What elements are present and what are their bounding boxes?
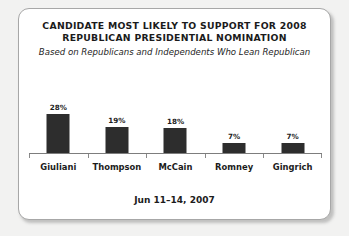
bar-slot-giuliani: 28%: [29, 87, 88, 153]
bar-giuliani: [47, 114, 70, 153]
category-label-giuliani: Giuliani: [29, 162, 88, 172]
bar-chart-plot-area: 28% 19% 18% 7% 7%: [29, 87, 322, 155]
chart-title-line-2: REPUBLICAN PRESIDENTIAL NOMINATION: [19, 32, 330, 44]
category-label-gingrich: Gingrich: [263, 162, 322, 172]
category-label-mccain: McCain: [146, 162, 205, 172]
bar-mccain: [164, 128, 187, 153]
axis-tick: [321, 154, 322, 158]
axis-tick: [29, 154, 30, 158]
category-label-row: Giuliani Thompson McCain Romney Gingrich: [29, 162, 322, 176]
title-block: CANDIDATE MOST LIKELY TO SUPPORT FOR 200…: [19, 20, 330, 59]
bar-slot-romney: 7%: [205, 87, 264, 153]
bar-thompson: [105, 127, 128, 153]
bar-value-label-mccain: 18%: [146, 117, 205, 126]
bar-value-label-romney: 7%: [205, 132, 264, 141]
bar-romney: [223, 143, 246, 153]
bar-slot-mccain: 18%: [146, 87, 205, 153]
category-label-thompson: Thompson: [88, 162, 147, 172]
bar-gingrich: [281, 143, 304, 153]
bar-value-label-gingrich: 7%: [263, 132, 322, 141]
axis-tick: [146, 154, 147, 158]
category-label-romney: Romney: [205, 162, 264, 172]
bar-value-label-thompson: 19%: [88, 116, 147, 125]
footer-date: Jun 11–14, 2007: [19, 195, 330, 205]
chart-subtitle: Based on Republicans and Independents Wh…: [19, 46, 330, 59]
x-axis-line: [29, 153, 322, 154]
chart-card: CANDIDATE MOST LIKELY TO SUPPORT FOR 200…: [18, 8, 331, 220]
bar-slot-thompson: 19%: [88, 87, 147, 153]
bar-slot-gingrich: 7%: [263, 87, 322, 153]
axis-tick: [205, 154, 206, 158]
chart-title-line-1: CANDIDATE MOST LIKELY TO SUPPORT FOR 200…: [19, 20, 330, 32]
axis-tick: [263, 154, 264, 158]
bar-value-label-giuliani: 28%: [29, 103, 88, 112]
axis-tick: [88, 154, 89, 158]
